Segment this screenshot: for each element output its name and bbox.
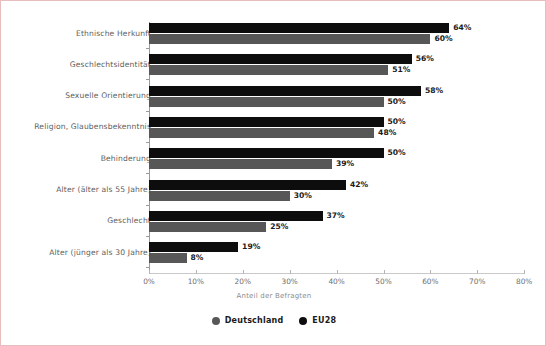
bar-value-label: 50% — [388, 117, 406, 127]
x-axis-tick — [337, 270, 338, 274]
category-label: Ethnische Herkunft — [76, 30, 151, 38]
x-axis-tick — [430, 270, 431, 274]
x-axis-tick-label: 0% — [143, 277, 155, 286]
category-label: Behinderung — [101, 155, 151, 163]
legend-label: EU28 — [312, 316, 336, 325]
x-axis-tick-label: 70% — [469, 277, 485, 286]
y-axis-tick — [146, 236, 149, 237]
legend-circle-icon — [299, 317, 307, 325]
bar-value-label: 50% — [388, 97, 406, 107]
bar-value-label: 8% — [191, 253, 204, 263]
y-axis-tick — [146, 48, 149, 49]
chart-frame: Ethnische HerkunftGeschlechtsidentitätSe… — [0, 0, 546, 346]
legend-circle-icon — [212, 317, 220, 325]
x-axis-tick — [477, 270, 478, 274]
bar-eu28 — [149, 117, 384, 127]
x-axis-title: Anteil der Befragten — [1, 292, 546, 300]
category-label: Geschlechtsidentität — [70, 61, 151, 69]
bar-deutschland — [149, 253, 187, 263]
bar-value-label: 48% — [378, 128, 396, 138]
bar-value-label: 60% — [434, 34, 452, 44]
bar-eu28 — [149, 86, 421, 96]
bar-eu28 — [149, 148, 384, 158]
bar-deutschland — [149, 34, 430, 44]
category-label: Alter (jünger als 30 Jahre) — [49, 249, 151, 257]
y-axis-tick — [146, 205, 149, 206]
bar-value-label: 25% — [270, 222, 288, 232]
x-axis-tick — [384, 270, 385, 274]
bar-value-label: 30% — [294, 191, 312, 201]
bar-value-label: 51% — [392, 65, 410, 75]
bar-eu28 — [149, 180, 346, 190]
bar-deutschland — [149, 97, 384, 107]
bar-chart-plot-area: Ethnische HerkunftGeschlechtsidentitätSe… — [1, 1, 546, 346]
bar-value-label: 37% — [327, 211, 345, 221]
bar-value-label: 64% — [453, 23, 471, 33]
x-axis-tick-label: 60% — [422, 277, 438, 286]
legend-label: Deutschland — [225, 316, 284, 325]
bar-deutschland — [149, 128, 374, 138]
x-axis-tick — [290, 270, 291, 274]
category-label: Geschlecht — [107, 217, 151, 225]
bar-deutschland — [149, 191, 290, 201]
bar-deutschland — [149, 65, 388, 75]
chart-legend: DeutschlandEU28 — [1, 316, 546, 325]
bar-eu28 — [149, 23, 449, 33]
bar-eu28 — [149, 54, 412, 64]
category-label: Alter (älter als 55 Jahre) — [56, 186, 151, 194]
x-axis-tick — [196, 270, 197, 274]
x-axis-tick-label: 10% — [188, 277, 204, 286]
legend-item: EU28 — [299, 316, 336, 325]
x-axis-tick-label: 50% — [375, 277, 391, 286]
bar-eu28 — [149, 242, 238, 252]
x-axis-tick-label: 20% — [235, 277, 251, 286]
y-axis-tick — [146, 111, 149, 112]
bar-value-label: 39% — [336, 159, 354, 169]
y-axis-tick — [146, 267, 149, 268]
bar-value-label: 58% — [425, 86, 443, 96]
bar-value-label: 50% — [388, 148, 406, 158]
bar-value-label: 42% — [350, 180, 368, 190]
category-label: Sexuelle Orientierung — [65, 92, 151, 100]
bar-eu28 — [149, 211, 323, 221]
bar-deutschland — [149, 222, 266, 232]
bar-value-label: 56% — [416, 54, 434, 64]
x-axis-tick — [524, 270, 525, 274]
x-axis-tick — [149, 270, 150, 274]
bar-deutschland — [149, 159, 332, 169]
bar-value-label: 19% — [242, 242, 260, 252]
y-axis-tick — [146, 142, 149, 143]
x-axis-tick-label: 40% — [328, 277, 344, 286]
y-axis-tick — [146, 173, 149, 174]
x-axis-tick-label: 80% — [516, 277, 532, 286]
legend-item: Deutschland — [212, 316, 284, 325]
category-label: Religion, Glaubensbekenntnis — [34, 123, 151, 131]
y-axis-tick — [146, 79, 149, 80]
x-axis-tick-label: 30% — [281, 277, 297, 286]
x-axis-tick — [243, 270, 244, 274]
